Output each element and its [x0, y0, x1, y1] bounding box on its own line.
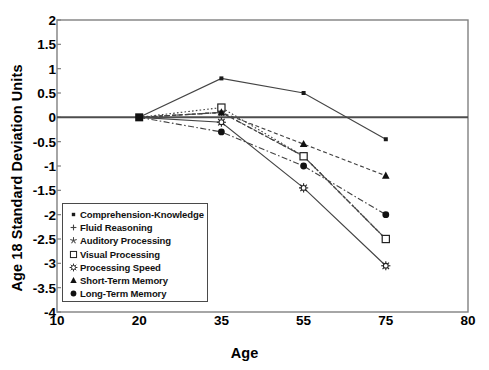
- marker-small-dot: [219, 76, 223, 80]
- x-tick-label: 35: [214, 313, 229, 328]
- legend-item: Short-Term Memory: [67, 274, 207, 287]
- y-tick-label: 0: [12, 110, 56, 125]
- y-tick-label: -3.5: [12, 280, 56, 295]
- y-axis-tick-labels: 21.510.50-0.5-1-1.5-2-2.5-3-3.5-4: [0, 0, 56, 370]
- marker-filled-circle: [218, 129, 225, 136]
- y-tick-label: -1.5: [12, 183, 56, 198]
- marker-small-dot: [302, 91, 306, 95]
- legend-label: Long-Term Memory: [80, 288, 166, 299]
- marker-sun: [301, 186, 306, 191]
- y-tick-label: 1: [12, 61, 56, 76]
- x-tick-label: 75: [378, 313, 393, 328]
- origin-convergence-marker: [135, 113, 143, 121]
- plot-area: [0, 0, 489, 370]
- marker-filled-circle: [300, 163, 307, 170]
- y-tick-label: 0.5: [12, 86, 56, 101]
- legend-label: Auditory Processing: [80, 235, 171, 246]
- legend-item: Fluid Reasoning: [67, 221, 207, 234]
- chart-legend: Comprehension-KnowledgeFluid ReasoningAu…: [62, 203, 208, 302]
- legend-item: Long-Term Memory: [67, 287, 207, 300]
- legend-marker-asterisk-star-icon: [67, 234, 80, 247]
- y-tick-label: -2: [12, 207, 56, 222]
- marker-sun-ray: [75, 265, 76, 266]
- marker-open-square: [300, 153, 307, 160]
- x-tick-label: 20: [132, 313, 147, 328]
- legend-marker-filled-circle-icon: [67, 287, 80, 300]
- legend-item: Visual Processing: [67, 248, 207, 261]
- legend-marker-open-square-icon: [67, 248, 80, 261]
- marker-sun: [383, 263, 388, 268]
- y-tick-label: -3: [12, 256, 56, 271]
- legend-marker-plus-icon: [67, 221, 80, 234]
- marker-sun-ray: [71, 265, 72, 266]
- y-tick-label: 1.5: [12, 37, 56, 52]
- marker-filled-triangle: [70, 277, 76, 283]
- y-tick-label: 2: [12, 13, 56, 28]
- marker-small-dot: [384, 137, 388, 141]
- legend-item: Processing Speed: [67, 261, 207, 274]
- legend-marker-small-dot-icon: [67, 208, 80, 221]
- marker-sun: [71, 265, 75, 269]
- legend-label: Visual Processing: [80, 249, 160, 260]
- x-tick-label: 55: [296, 313, 311, 328]
- x-tick-label: 10: [49, 313, 64, 328]
- legend-item: Auditory Processing: [67, 234, 207, 247]
- x-axis-title: Age: [0, 345, 489, 361]
- legend-label: Processing Speed: [80, 262, 161, 273]
- legend-marker-sun-star-icon: [67, 261, 80, 274]
- y-tick-label: -2.5: [12, 232, 56, 247]
- marker-small-dot: [72, 213, 75, 216]
- marker-filled-circle: [382, 211, 389, 218]
- marker-open-square: [382, 235, 389, 242]
- marker-sun-ray: [75, 269, 76, 270]
- marker-open-square: [70, 251, 76, 257]
- marker-sun: [219, 120, 224, 125]
- legend-label: Short-Term Memory: [80, 275, 168, 286]
- y-tick-label: -0.5: [12, 134, 56, 149]
- legend-item: Comprehension-Knowledge: [67, 208, 207, 221]
- legend-label: Comprehension-Knowledge: [80, 209, 204, 220]
- legend-label: Fluid Reasoning: [80, 222, 152, 233]
- marker-filled-circle: [71, 291, 77, 297]
- x-tick-label: 80: [460, 313, 475, 328]
- y-tick-label: -1: [12, 159, 56, 174]
- chart-figure: Age 18 Standard Deviation Units Age 21.5…: [0, 0, 489, 370]
- legend-marker-filled-triangle-icon: [67, 274, 80, 287]
- marker-sun-ray: [71, 269, 72, 270]
